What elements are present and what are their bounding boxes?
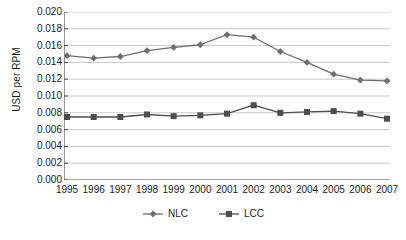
y-tick-label: 0.004 xyxy=(22,141,62,151)
y-tick-label: 0.002 xyxy=(22,158,62,168)
data-point-marker-diamond xyxy=(90,55,97,62)
data-point-marker-diamond xyxy=(357,77,364,84)
data-point-marker-square xyxy=(64,114,70,120)
data-point-marker-square xyxy=(224,111,230,117)
plot-area xyxy=(64,12,390,180)
data-point-marker-square xyxy=(171,113,177,119)
y-tick-label: 0.018 xyxy=(22,24,62,34)
data-point-marker-square xyxy=(357,111,363,117)
y-tick-label: 0.006 xyxy=(22,125,62,135)
data-point-marker-square xyxy=(91,114,97,120)
data-point-marker-square xyxy=(277,110,283,116)
data-point-marker-square xyxy=(384,116,390,122)
data-point-marker-square xyxy=(144,111,150,117)
plot-svg xyxy=(64,12,390,180)
x-axis-tick-labels: 1995199619971998199920002001200220032004… xyxy=(64,184,390,200)
data-point-marker-diamond xyxy=(64,52,70,59)
data-point-marker-diamond xyxy=(117,53,124,60)
data-point-marker-diamond xyxy=(304,59,311,66)
series-lcc xyxy=(64,102,390,121)
data-point-marker-square xyxy=(304,109,310,115)
y-tick-label: 0.010 xyxy=(22,91,62,101)
y-tick-label: 0.014 xyxy=(22,57,62,67)
data-series xyxy=(64,31,390,121)
chart-legend: NLCLCC xyxy=(0,208,406,220)
series-line xyxy=(67,35,387,81)
legend-entry-nlc[interactable]: NLC xyxy=(142,208,188,220)
data-point-marker-diamond xyxy=(197,41,204,48)
data-point-marker-square xyxy=(251,102,257,108)
y-tick-label: 0.008 xyxy=(22,108,62,118)
data-point-marker-diamond xyxy=(384,77,390,84)
y-axis-tick-labels: 0.0200.0180.0160.0140.0120.0100.0080.006… xyxy=(22,12,62,180)
y-tick-label: 0.012 xyxy=(22,74,62,84)
y-axis-title: USD per RPM xyxy=(11,20,22,140)
y-tick-label: 0.016 xyxy=(22,41,62,51)
x-tick-label: 2007 xyxy=(367,184,406,196)
legend-label: LCC xyxy=(244,208,264,220)
data-point-marker-diamond xyxy=(330,71,337,78)
y-tick-label: 0.020 xyxy=(22,7,62,17)
legend-label: NLC xyxy=(168,208,188,220)
line-chart: USD per RPM 0.0200.0180.0160.0140.0120.0… xyxy=(0,0,406,240)
legend-entry-lcc[interactable]: LCC xyxy=(218,208,264,220)
data-point-marker-diamond xyxy=(224,31,231,38)
data-point-marker-square xyxy=(226,211,232,217)
data-point-marker-diamond xyxy=(150,211,157,218)
data-point-marker-square xyxy=(117,114,123,120)
series-nlc xyxy=(64,31,390,84)
legend-marker-diamond-icon xyxy=(142,209,164,219)
data-point-marker-square xyxy=(331,108,337,114)
data-point-marker-diamond xyxy=(170,44,177,51)
legend-marker-square-icon xyxy=(218,209,240,219)
data-point-marker-square xyxy=(197,112,203,118)
data-point-marker-diamond xyxy=(250,34,257,41)
data-point-marker-diamond xyxy=(144,47,151,54)
data-point-marker-diamond xyxy=(277,48,284,55)
